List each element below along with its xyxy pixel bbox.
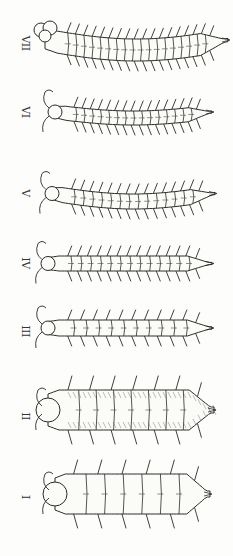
leg-icon <box>172 123 176 133</box>
leg-icon <box>188 98 192 108</box>
leg-icon <box>156 246 160 256</box>
leg-icon <box>159 28 163 38</box>
leg-icon <box>210 26 214 36</box>
leg-icon <box>176 430 180 444</box>
body-outline <box>52 187 215 209</box>
leg-icon <box>93 310 97 320</box>
leg-icon <box>123 101 127 111</box>
leg-icon <box>201 24 205 34</box>
leg-icon <box>97 271 101 281</box>
leg-icon <box>196 119 200 129</box>
leg-icon <box>181 205 185 215</box>
leg-icon <box>159 60 163 70</box>
leg-icon <box>196 333 200 343</box>
leg-icon <box>181 180 185 190</box>
leg-icon <box>193 25 197 35</box>
leg-icon <box>93 336 97 346</box>
leg-icon <box>176 376 180 390</box>
leg-icon <box>156 271 160 281</box>
leg-icon <box>154 376 158 390</box>
leg-icon <box>90 206 94 216</box>
leg-icon <box>164 100 168 110</box>
leg-icon <box>134 61 138 71</box>
leg-icon <box>90 123 94 133</box>
leg-icon <box>180 99 184 109</box>
leg-icon <box>117 208 121 218</box>
leg-icon <box>147 125 151 135</box>
leg-icon <box>131 101 135 111</box>
leg-icon <box>153 183 157 193</box>
leg-icon <box>115 101 119 111</box>
head <box>48 105 62 119</box>
leg-icon <box>171 206 175 216</box>
leg-icon <box>126 183 130 193</box>
leg-icon <box>90 99 94 109</box>
leg-icon <box>131 125 135 135</box>
leg-icon <box>126 29 130 39</box>
leg-icon <box>122 514 126 528</box>
leg-icon <box>68 336 72 346</box>
leg-icon <box>115 125 119 135</box>
leg-icon <box>196 99 200 109</box>
leg-icon <box>107 246 111 256</box>
leg-icon <box>137 271 141 281</box>
leg-icon <box>80 336 84 346</box>
head <box>41 321 55 335</box>
body-outline <box>55 106 212 125</box>
leg-icon <box>68 376 72 390</box>
leg-icon <box>92 26 96 36</box>
leg-icon <box>80 310 84 320</box>
leg-icon <box>133 430 137 444</box>
leg-icon <box>98 460 102 474</box>
leg-icon <box>75 24 79 34</box>
leg-icon <box>190 179 194 189</box>
leg-icon <box>210 50 214 60</box>
leg-icon <box>98 100 102 110</box>
leg-icon <box>122 460 126 474</box>
leg-icon <box>101 59 105 69</box>
leg-icon <box>190 204 194 214</box>
leg-icon <box>123 125 127 135</box>
leg-icon <box>170 460 174 474</box>
leg-icon <box>78 271 82 281</box>
specimen-stage-vi <box>0 75 233 149</box>
head <box>41 256 55 270</box>
leg-icon <box>109 28 113 38</box>
leg-icon <box>176 271 180 281</box>
leg-icon <box>92 58 96 68</box>
head <box>43 482 67 506</box>
leg-icon <box>162 207 166 217</box>
head <box>36 398 60 422</box>
leg-icon <box>81 180 85 190</box>
leg-icon <box>135 208 139 218</box>
leg-icon <box>75 56 79 66</box>
leg-icon <box>74 460 78 474</box>
leg-icon <box>168 28 172 38</box>
leg-icon <box>135 183 139 193</box>
leg-icon <box>196 268 200 278</box>
leg-icon <box>197 423 201 437</box>
leg-icon <box>199 200 203 210</box>
leg-icon <box>155 124 159 134</box>
leg-icon <box>68 430 72 444</box>
leg-icon <box>144 183 148 193</box>
body-outline <box>45 31 228 61</box>
leg-icon <box>195 467 199 481</box>
leg-icon <box>162 182 166 192</box>
leg-icon <box>72 203 76 213</box>
leg-icon <box>197 383 201 397</box>
leg-icon <box>139 125 143 135</box>
leg-icon <box>74 121 78 131</box>
leg-icon <box>127 246 131 256</box>
leg-icon <box>109 60 113 70</box>
leg-icon <box>68 271 72 281</box>
leg-icon <box>146 246 150 256</box>
leg-icon <box>98 514 102 528</box>
leg-icon <box>111 430 115 444</box>
leg-icon <box>107 271 111 281</box>
leg-icon <box>180 123 184 133</box>
leg-icon <box>170 336 174 346</box>
leg-icon <box>67 23 71 33</box>
leg-icon <box>164 124 168 134</box>
specimen-stage-i <box>0 444 233 544</box>
